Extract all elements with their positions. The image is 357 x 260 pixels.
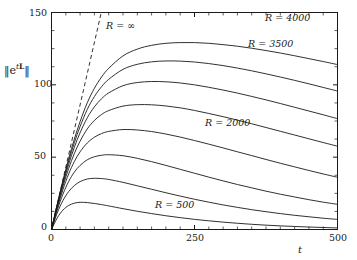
series-line: [52, 81, 338, 229]
x-tick-label-0: 0: [48, 232, 54, 243]
series-label-r3500: R = 3500: [248, 38, 293, 49]
x-tick-label-500: 500: [329, 232, 347, 243]
y-tick-label-150: 150: [29, 7, 47, 18]
series-line: [52, 61, 338, 230]
x-tick-label-250: 250: [186, 232, 204, 243]
y-axis-title: ‖etL‖: [4, 62, 30, 77]
x-axis-title: t: [298, 244, 302, 255]
asymptote-label-rinf: R = ∞: [106, 20, 135, 31]
y-tick-label-50: 50: [34, 150, 46, 161]
series-line: [52, 43, 338, 230]
y-tick-label-0: 0: [41, 221, 47, 232]
series-label-r4000: R = 4000: [265, 12, 310, 23]
chart-canvas: [0, 0, 357, 260]
figure-container: ‖etL‖ 150 100 50 0 0 250 500 t R = 4000 …: [0, 0, 357, 260]
y-tick-label-100: 100: [34, 78, 52, 89]
series-line: [52, 129, 338, 229]
series-label-r2000: R = 2000: [205, 117, 250, 128]
series-curves: [52, 43, 338, 230]
series-line: [52, 155, 338, 230]
series-label-r500: R = 500: [155, 199, 194, 210]
